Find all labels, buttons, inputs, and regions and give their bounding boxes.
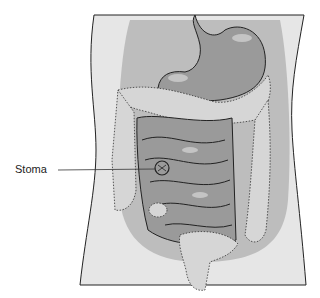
stoma-label: Stoma bbox=[15, 163, 47, 175]
abdomen-illustration bbox=[0, 0, 320, 298]
small-intestine bbox=[137, 116, 236, 244]
cecum bbox=[149, 203, 167, 217]
